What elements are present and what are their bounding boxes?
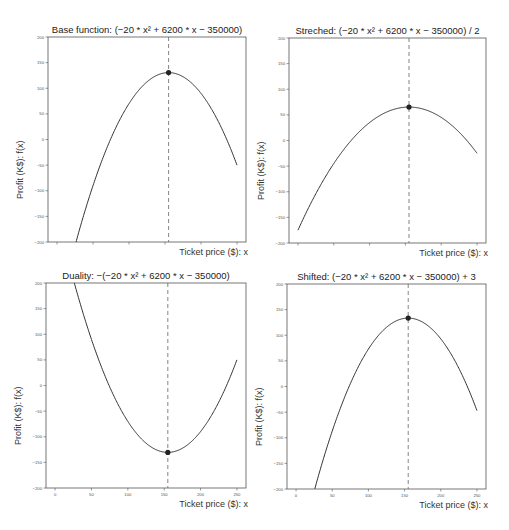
y-tick-label: −150 <box>33 460 43 465</box>
subplot-stretched: Streched: (−20 * x² + 6200 * x − 350000)… <box>259 8 509 273</box>
y-tick-label: −200 <box>35 240 45 245</box>
y-tick-label: 150 <box>37 60 45 65</box>
vertex-marker <box>406 104 411 109</box>
x-tick-label: 50 <box>330 493 335 498</box>
x-tick-label: 250 <box>233 492 241 497</box>
function-curve <box>296 318 477 530</box>
y-tick-label: 150 <box>278 61 286 66</box>
y-tick-label: 0 <box>283 138 286 143</box>
y-tick-label: 200 <box>35 281 43 286</box>
y-tick-label: 100 <box>35 332 43 337</box>
y-tick-label: 150 <box>35 306 43 311</box>
x-tick-label: 0 <box>54 492 57 497</box>
vertex-marker <box>165 450 170 455</box>
subplot-duality: Duality: −(−20 * x² + 6200 * x − 350000)… <box>16 253 276 518</box>
plot-area: 200150100500−50−100−150−2000501001502002… <box>257 254 509 519</box>
y-tick-label: −50 <box>37 163 45 168</box>
y-tick-label: 50 <box>39 111 44 116</box>
y-tick-label: 0 <box>40 383 43 388</box>
y-tick-label: 0 <box>42 137 45 142</box>
y-tick-label: −50 <box>35 409 43 414</box>
y-tick-label: −200 <box>33 486 43 491</box>
vertex-marker <box>166 70 171 75</box>
axes-frame <box>287 284 486 489</box>
y-tick-label: 200 <box>276 282 284 287</box>
x-tick-label: 0 <box>295 493 298 498</box>
x-tick-label: 200 <box>197 492 205 497</box>
y-tick-label: −200 <box>276 241 286 246</box>
y-tick-label: 0 <box>281 384 284 389</box>
subplot-shifted: Shifted: (−20 * x² + 6200 * x − 350000) … <box>257 254 509 519</box>
y-tick-label: 200 <box>37 35 45 40</box>
y-tick-label: 50 <box>37 357 42 362</box>
plot-area: 200150100500−50−100−150−200 <box>18 7 276 272</box>
y-tick-label: 100 <box>37 86 45 91</box>
vertex-marker <box>406 315 411 320</box>
y-tick-label: 100 <box>278 87 286 92</box>
x-tick-label: 250 <box>473 493 481 498</box>
x-tick-label: 200 <box>437 493 445 498</box>
y-tick-label: −150 <box>35 214 45 219</box>
axes-frame <box>48 37 246 242</box>
x-tick-label: 150 <box>401 493 409 498</box>
plot-area: 200150100500−50−100−150−200 <box>259 8 509 273</box>
y-tick-label: −150 <box>276 215 286 220</box>
subplot-base-function: Base function: (−20 * x² + 6200 * x − 35… <box>18 7 276 272</box>
y-tick-label: −100 <box>276 189 286 194</box>
x-tick-label: 150 <box>161 492 169 497</box>
y-tick-label: 100 <box>276 333 284 338</box>
y-tick-label: −150 <box>274 461 284 466</box>
function-curve <box>298 107 477 230</box>
y-tick-label: 50 <box>280 112 285 117</box>
axes-frame <box>46 283 246 488</box>
y-tick-label: −50 <box>276 410 284 415</box>
axes-frame <box>289 38 486 243</box>
y-tick-label: 150 <box>276 307 284 312</box>
x-tick-label: 100 <box>365 493 373 498</box>
y-tick-label: −100 <box>35 188 45 193</box>
y-tick-label: 200 <box>278 36 286 41</box>
y-tick-label: −100 <box>33 434 43 439</box>
y-tick-label: 50 <box>278 358 283 363</box>
x-tick-label: 50 <box>89 492 94 497</box>
x-tick-label: 100 <box>124 492 132 497</box>
y-tick-label: −200 <box>274 487 284 492</box>
y-tick-label: −100 <box>274 435 284 440</box>
plot-area: 200150100500−50−100−150−2000501001502002… <box>16 253 276 518</box>
y-tick-label: −50 <box>278 164 286 169</box>
